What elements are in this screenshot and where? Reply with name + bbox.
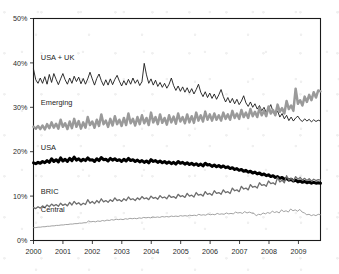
x-tick-label: 2008 <box>261 247 277 256</box>
y-tick-label: 20% <box>13 147 28 156</box>
y-tick-label: 30% <box>13 103 28 112</box>
series-label-usa-uk: USA + UK <box>41 53 75 62</box>
x-tick-label: 2004 <box>143 247 159 256</box>
chart-background <box>0 0 339 274</box>
series-label-emerging: Emerging <box>41 98 73 107</box>
series-label-central: Central <box>41 205 65 214</box>
x-tick-label: 2006 <box>202 247 218 256</box>
x-tick-label: 2005 <box>173 247 189 256</box>
x-tick-label: 2000 <box>26 247 42 256</box>
x-tick-label: 2003 <box>114 247 130 256</box>
y-tick-label: 40% <box>13 59 28 68</box>
series-label-usa: USA <box>41 143 56 152</box>
line-chart: 0%10%20%30%40%50% 2000200120022003200420… <box>0 0 339 274</box>
x-tick-label: 2009 <box>290 247 306 256</box>
y-tick-label: 50% <box>13 14 28 23</box>
y-tick-label: 10% <box>13 192 28 201</box>
chart-container: 0%10%20%30%40%50% 2000200120022003200420… <box>0 0 339 274</box>
x-tick-label: 2002 <box>84 247 100 256</box>
y-tick-label: 0% <box>17 236 28 245</box>
x-tick-label: 2007 <box>232 247 248 256</box>
series-label-bric: BRIC <box>41 187 59 196</box>
x-tick-label: 2001 <box>55 247 71 256</box>
